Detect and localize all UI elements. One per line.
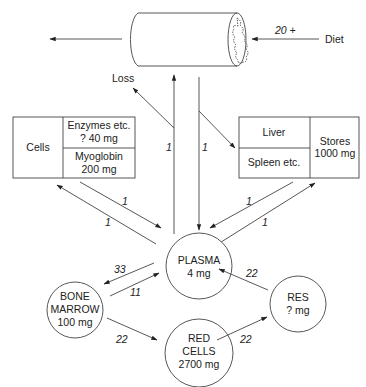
flow-stores-to-plasma: 1 (246, 195, 252, 207)
diet-label: Diet (325, 33, 344, 45)
intestine-cylinder (131, 13, 249, 66)
plasma-to-cells-arrow (57, 185, 156, 244)
res-node: RES ? mg (270, 276, 326, 332)
red-cells-amount: 2700 mg (179, 358, 220, 370)
stores-box: Liver Spleen etc. Stores 1000 mg (239, 117, 359, 178)
liver-label: Liver (263, 126, 286, 138)
plasma-node: PLASMA 4 mg (166, 233, 232, 299)
iron-metabolism-diagram: 20 + Diet Loss 1 1 Cells Enzymes etc. ? … (0, 0, 366, 387)
flow-gut-to-plasma: 1 (202, 141, 208, 153)
cells-to-plasma-arrow (80, 182, 161, 228)
red-cells-label-2: CELLS (182, 345, 215, 357)
marrow-to-redcells-arrow (107, 318, 157, 340)
bone-marrow-node: BONE MARROW 100 mg (47, 282, 103, 338)
myoglobin-amount: 200 mg (81, 163, 116, 175)
spleen-label: Spleen etc. (248, 156, 301, 168)
bone-marrow-amount: 100 mg (57, 316, 92, 328)
bone-marrow-label-1: BONE (60, 290, 90, 302)
flow-plasma-to-cells: 1 (105, 216, 111, 228)
flow-redcells-to-res: 22 (239, 333, 252, 345)
flow-cells-to-plasma: 1 (122, 195, 128, 207)
loss-label: Loss (112, 72, 134, 84)
plasma-to-stores-arrow (218, 183, 315, 244)
cells-box: Cells Enzymes etc. ? 40 mg Myoglobin 200… (13, 117, 135, 178)
flow-plasma-to-stores: 1 (262, 216, 268, 228)
bone-marrow-label-2: MARROW (51, 303, 100, 315)
flow-plasma-to-marrow: 33 (114, 263, 126, 275)
enzymes-amount: ? 40 mg (80, 132, 118, 144)
res-amount: ? mg (286, 304, 310, 316)
stores-amount: 1000 mg (315, 147, 356, 159)
cells-label: Cells (26, 141, 49, 153)
plasma-label: PLASMA (178, 254, 221, 266)
flow-res-to-plasma: 22 (245, 267, 258, 279)
res-label: RES (287, 291, 309, 303)
enzymes-label: Enzymes etc. (67, 119, 130, 131)
myoglobin-label: Myoglobin (75, 150, 123, 162)
loss-arrow (133, 88, 174, 128)
plasma-amount: 4 mg (187, 267, 211, 279)
plasma-to-marrow-arrow (104, 263, 154, 284)
flow-marrow-to-plasma: 11 (130, 286, 141, 298)
flow-plasma-to-gut: 1 (166, 141, 172, 153)
red-cells-node: RED CELLS 2700 mg (165, 319, 233, 387)
flow-marrow-to-redcells: 22 (115, 333, 128, 345)
red-cells-label-1: RED (188, 332, 211, 344)
stores-label: Stores (320, 135, 350, 147)
diet-amount: 20 + (274, 24, 296, 36)
